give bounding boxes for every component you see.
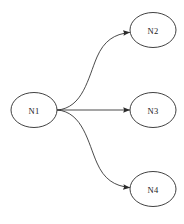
node-n1-label: N1: [29, 106, 40, 116]
node-n4-label: N4: [148, 185, 159, 195]
edges-layer: [58, 30, 131, 191]
edge-n1-n4-path: [58, 110, 130, 188]
edge-n1-n3[interactable]: [58, 107, 131, 112]
graph-svg-surface: N1 N2 N3 N4: [0, 0, 184, 224]
graph-diagram-canvas: N1 N2 N3 N4: [0, 0, 184, 224]
edge-n1-n4[interactable]: [58, 110, 131, 190]
node-n2-label: N2: [148, 26, 159, 36]
node-n2[interactable]: N2: [130, 13, 176, 48]
edge-n1-n2-path: [58, 33, 130, 111]
node-n1[interactable]: N1: [11, 93, 57, 128]
node-n3-label: N3: [148, 106, 159, 116]
node-n4[interactable]: N4: [130, 172, 176, 207]
edge-n1-n2-arrowhead: [123, 30, 130, 36]
edge-n1-n4-arrowhead: [123, 184, 130, 190]
edge-n1-n3-arrowhead: [123, 107, 130, 112]
node-n3[interactable]: N3: [130, 93, 176, 128]
edge-n1-n2[interactable]: [58, 30, 131, 110]
nodes-layer: N1 N2 N3 N4: [11, 13, 176, 207]
